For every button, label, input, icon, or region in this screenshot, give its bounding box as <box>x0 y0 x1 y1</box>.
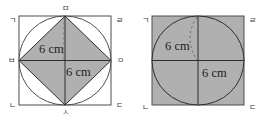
left-dimension-upper: 6 cm <box>39 42 64 56</box>
left-figure-canvas: ㄱ ㄹ ㄴ ㄷ ㅁ ㅂ ㅇ ㅅ 6 cm 6 cm <box>0 0 133 126</box>
right-vertex-label-top-right: ㄹ <box>249 16 256 25</box>
left-vertex-label-right-mid: ㅇ <box>117 56 124 65</box>
left-dimension-lower: 6 cm <box>66 65 91 79</box>
left-figure: ㄱ ㄹ ㄴ ㄷ ㅁ ㅂ ㅇ ㅅ 6 cm 6 cm <box>0 0 133 126</box>
right-vertex-label-bottom-left: ㄴ <box>142 103 149 112</box>
left-vertex-label-bottom-right: ㄷ <box>116 101 123 110</box>
right-dimension-upper: 6 cm <box>165 39 190 53</box>
left-vertex-label-top-left: ㄱ <box>9 16 16 25</box>
right-figure: ㄱ ㄹ ㄴ ㄷ 6 cm 6 cm <box>133 0 265 126</box>
right-vertex-label-bottom-right: ㄷ <box>249 103 256 112</box>
left-vertex-label-left-mid: ㅂ <box>8 56 15 65</box>
left-vertex-label-bottom-mid: ㅅ <box>62 108 69 117</box>
right-dimension-lower: 6 cm <box>202 66 227 80</box>
right-figure-canvas: ㄱ ㄹ ㄴ ㄷ 6 cm 6 cm <box>133 0 265 126</box>
left-vertex-label-top-right: ㄹ <box>116 16 123 25</box>
figure-board: ㄱ ㄹ ㄴ ㄷ ㅁ ㅂ ㅇ ㅅ 6 cm 6 cm ㄱ <box>0 0 265 126</box>
left-vertex-label-top-mid: ㅁ <box>62 4 69 13</box>
right-vertex-label-top-left: ㄱ <box>142 16 149 25</box>
left-vertex-label-bottom-left: ㄴ <box>9 101 16 110</box>
